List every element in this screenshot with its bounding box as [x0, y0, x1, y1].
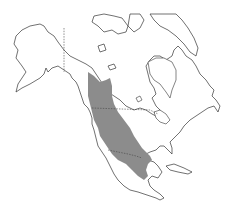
cuba — [166, 164, 192, 174]
range-map — [0, 0, 232, 215]
arctic-island — [92, 14, 128, 34]
lake — [136, 96, 142, 102]
arctic-island — [108, 64, 116, 70]
arctic-island — [98, 44, 106, 52]
arctic-island — [128, 14, 144, 32]
